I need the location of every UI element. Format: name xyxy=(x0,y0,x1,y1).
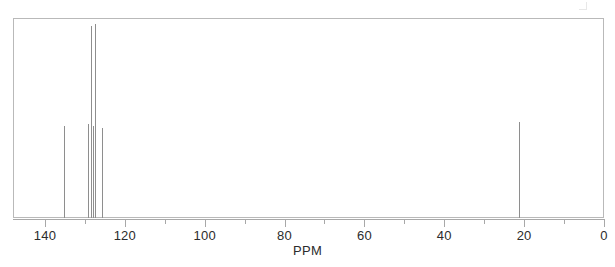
axis-tick-minor xyxy=(484,219,485,224)
x-axis xyxy=(13,219,604,233)
axis-tick-minor xyxy=(85,219,86,224)
axis-tick-major xyxy=(45,219,46,227)
axis-tick-major xyxy=(364,219,365,227)
axis-tick-major xyxy=(205,219,206,227)
nmr-spectrum-figure: PPM 140120100806040200 xyxy=(0,0,615,267)
axis-tick-label: 40 xyxy=(437,228,452,243)
corner-mark xyxy=(579,2,587,10)
axis-tick-label: 140 xyxy=(34,228,56,243)
axis-tick-minor xyxy=(564,219,565,224)
axis-tick-label: 100 xyxy=(194,228,216,243)
axis-tick-label: 0 xyxy=(600,228,607,243)
axis-tick-major xyxy=(444,219,445,227)
axis-line xyxy=(13,219,604,220)
axis-tick-major xyxy=(125,219,126,227)
axis-tick-label: 20 xyxy=(517,228,532,243)
axis-tick-label: 80 xyxy=(277,228,292,243)
axis-tick-major xyxy=(604,219,605,227)
axis-tick-major xyxy=(285,219,286,227)
axis-tick-label: 120 xyxy=(114,228,136,243)
axis-tick-label: 60 xyxy=(357,228,372,243)
plot-frame xyxy=(13,18,604,218)
axis-tick-major xyxy=(524,219,525,227)
axis-title: PPM xyxy=(0,243,615,258)
axis-tick-minor xyxy=(245,219,246,224)
axis-tick-minor xyxy=(165,219,166,224)
axis-tick-minor xyxy=(324,219,325,224)
axis-tick-minor xyxy=(404,219,405,224)
